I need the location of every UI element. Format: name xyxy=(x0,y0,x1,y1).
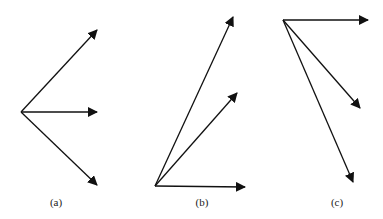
panel-c xyxy=(283,20,368,182)
vector-arrow-c-2 xyxy=(283,20,360,108)
panel-label-b: (b) xyxy=(196,196,209,209)
panel-a xyxy=(21,30,97,185)
panel-label-a: (a) xyxy=(50,196,63,209)
vector-arrow-c-3 xyxy=(283,20,353,182)
vector-diagram: (a) (b) (c) xyxy=(0,0,383,219)
vector-arrow-b-1 xyxy=(155,17,233,186)
panel-label-c: (c) xyxy=(331,196,344,209)
vector-arrow-b-3 xyxy=(155,186,245,187)
vector-arrow-a-3 xyxy=(21,112,97,185)
vector-arrow-b-2 xyxy=(155,93,237,186)
vector-arrow-a-1 xyxy=(21,30,97,112)
panel-b xyxy=(155,17,245,187)
